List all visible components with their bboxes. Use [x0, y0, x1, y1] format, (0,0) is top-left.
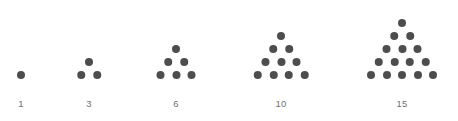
dot [269, 71, 277, 79]
dot [414, 45, 422, 53]
dot [390, 58, 398, 66]
dot [85, 58, 93, 66]
dot [157, 71, 165, 79]
dot [17, 71, 25, 79]
dot-row [157, 71, 196, 79]
dot-gap [406, 75, 414, 76]
dot [277, 32, 285, 40]
triangular-numbers-figure: 1361015 [0, 0, 458, 121]
dot [421, 58, 429, 66]
dot [277, 58, 285, 66]
dot [406, 32, 414, 40]
dot [262, 58, 270, 66]
dot-gap [270, 62, 278, 63]
dot-row [398, 19, 406, 27]
dot-gap [398, 36, 406, 37]
dot-gap [165, 75, 173, 76]
dot [383, 71, 391, 79]
dot [398, 71, 406, 79]
dot-gap [414, 62, 422, 63]
dot [188, 71, 196, 79]
dot [429, 71, 437, 79]
dot-row [367, 71, 437, 79]
dot [93, 71, 101, 79]
dot-row [383, 45, 422, 53]
dot-gap [172, 62, 180, 63]
dot [254, 71, 262, 79]
dot-row [375, 58, 430, 66]
dot-row [172, 45, 180, 53]
dot-gap [180, 75, 188, 76]
dot-row [269, 45, 293, 53]
dot [172, 71, 180, 79]
dot-row [17, 71, 25, 79]
dot-gap [391, 49, 399, 50]
dot-gap [375, 75, 383, 76]
dot-gap [85, 75, 93, 76]
dot [398, 19, 406, 27]
dot-row [164, 58, 188, 66]
dot-gap [383, 62, 391, 63]
dot-row [277, 32, 285, 40]
dot-row [85, 58, 93, 66]
dot [180, 58, 188, 66]
dot [383, 45, 391, 53]
dot [398, 45, 406, 53]
dot [367, 71, 375, 79]
dot-row [390, 32, 414, 40]
dot-row [77, 71, 101, 79]
dot-count-label-10: 10 [276, 98, 287, 109]
dot-row [254, 71, 309, 79]
dot [285, 71, 293, 79]
dot-gap [293, 75, 301, 76]
dot-count-label-3: 3 [86, 98, 91, 109]
dot [375, 58, 383, 66]
dot-count-label-15: 15 [397, 98, 408, 109]
dot-gap [398, 62, 406, 63]
dot-gap [277, 75, 285, 76]
dot [172, 45, 180, 53]
dot [390, 32, 398, 40]
dot-gap [277, 49, 285, 50]
dot-gap [406, 49, 414, 50]
dot [164, 58, 172, 66]
dot-gap [285, 62, 293, 63]
dot-gap [391, 75, 399, 76]
dot-gap [422, 75, 430, 76]
dot [300, 71, 308, 79]
dot-count-label-1: 1 [18, 98, 23, 109]
dot [269, 45, 277, 53]
dot [293, 58, 301, 66]
dot [406, 58, 414, 66]
dot [77, 71, 85, 79]
dot-gap [262, 75, 270, 76]
dot-count-label-6: 6 [173, 98, 178, 109]
dot-row [262, 58, 301, 66]
dot [414, 71, 422, 79]
dot [285, 45, 293, 53]
